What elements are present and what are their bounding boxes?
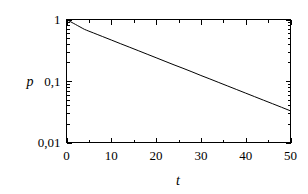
x-tick-label: 40 xyxy=(239,148,252,163)
y-tick-label: 1 xyxy=(54,12,61,27)
semilog-decay-plot: 01020304050 10,10,01 p t xyxy=(0,0,308,194)
x-tick-label: 50 xyxy=(284,148,297,163)
y-tick-label: 0,1 xyxy=(44,74,60,89)
chart-figure: 01020304050 10,10,01 p t xyxy=(0,0,308,194)
y-tick-label: 0,01 xyxy=(38,135,61,150)
x-tick-label: 30 xyxy=(194,148,207,163)
chart-background xyxy=(0,0,308,194)
x-tick-label: 20 xyxy=(150,148,163,163)
x-tick-label: 0 xyxy=(63,148,70,163)
x-tick-label: 10 xyxy=(105,148,118,163)
y-axis-label: p xyxy=(26,74,34,89)
